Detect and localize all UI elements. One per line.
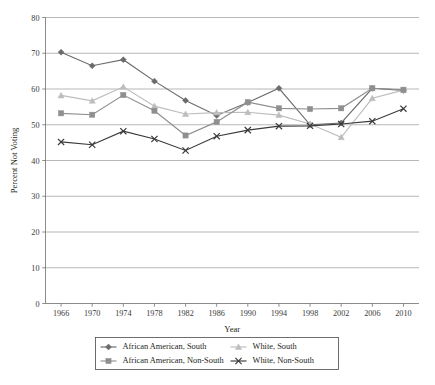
chart-container: 01020304050607080 1966197019741978198219… xyxy=(0,0,435,385)
y-axis-title: Percent Not Voting xyxy=(9,127,19,193)
y-tick-label: 40 xyxy=(31,157,39,166)
x-tick-label: 1970 xyxy=(84,309,100,318)
data-point-cross xyxy=(400,106,406,112)
legend-entry[interactable]: White, Non-South xyxy=(231,356,315,365)
legend-label: African American, Non-South xyxy=(123,356,225,365)
y-tick-label: 60 xyxy=(31,85,39,94)
x-tick-label: 2002 xyxy=(333,309,349,318)
data-point-square xyxy=(307,106,312,111)
data-point-diamond xyxy=(58,49,64,55)
x-axis-ticks: 1966197019741978198219861990199419982002… xyxy=(53,304,412,319)
data-point-square xyxy=(214,119,219,124)
y-tick-label: 50 xyxy=(31,121,39,130)
data-point-square xyxy=(276,106,281,111)
legend-entry[interactable]: White, South xyxy=(231,342,298,351)
x-axis-title: Year xyxy=(224,324,240,334)
x-tick-label: 1986 xyxy=(209,309,225,318)
data-point-square xyxy=(245,100,250,105)
y-tick-label: 70 xyxy=(31,49,39,58)
data-point-square xyxy=(401,87,406,92)
line-chart: 01020304050607080 1966197019741978198219… xyxy=(0,0,435,385)
legend: African American, SouthWhite, SouthAfric… xyxy=(96,338,339,370)
series-line xyxy=(61,109,403,151)
data-point-cross xyxy=(182,147,188,153)
series-line xyxy=(61,88,403,135)
y-tick-label: 10 xyxy=(31,264,39,273)
y-tick-label: 20 xyxy=(31,228,39,237)
x-tick-label: 1994 xyxy=(271,309,287,318)
data-point-square xyxy=(339,106,344,111)
x-tick-label: 1966 xyxy=(53,309,69,318)
data-point-square xyxy=(106,358,111,363)
data-point-square xyxy=(370,86,375,91)
series-2 xyxy=(58,86,406,138)
y-tick-label: 30 xyxy=(31,192,39,201)
data-point-diamond xyxy=(183,97,189,103)
series-0 xyxy=(58,49,406,128)
y-tick-label: 80 xyxy=(31,14,39,23)
data-point-diamond xyxy=(89,63,95,69)
legend-label: White, South xyxy=(253,342,298,351)
data-point-triangle xyxy=(151,103,157,109)
gridlines-group xyxy=(46,18,420,268)
x-tick-label: 2010 xyxy=(395,309,411,318)
x-tick-label: 1982 xyxy=(177,309,193,318)
x-tick-label: 1978 xyxy=(146,309,162,318)
x-tick-label: 1990 xyxy=(240,309,256,318)
y-axis-ticks: 01020304050607080 xyxy=(31,14,45,309)
legend-entry[interactable]: African American, Non-South xyxy=(101,356,225,365)
x-tick-label: 2006 xyxy=(364,309,380,318)
x-tick-label: 1974 xyxy=(115,309,131,318)
data-point-square xyxy=(58,111,63,116)
data-point-square xyxy=(121,92,126,97)
series-group xyxy=(58,49,407,153)
series-line xyxy=(61,52,403,125)
data-point-triangle xyxy=(58,92,64,98)
legend-label: African American, South xyxy=(123,342,208,351)
data-point-diamond xyxy=(106,344,112,350)
data-point-triangle xyxy=(120,84,126,90)
data-point-square xyxy=(90,112,95,117)
data-point-square xyxy=(152,108,157,113)
x-tick-label: 1998 xyxy=(302,309,318,318)
data-point-square xyxy=(183,133,188,138)
legend-entry[interactable]: African American, South xyxy=(101,342,208,351)
legend-label: White, Non-South xyxy=(253,356,315,365)
y-tick-label: 0 xyxy=(35,300,39,309)
